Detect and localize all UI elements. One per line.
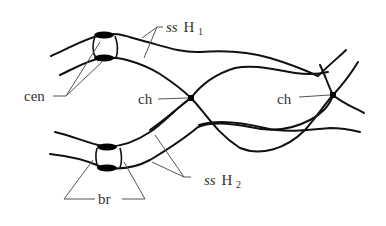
ss-h2-label: ss H 2 <box>204 172 241 190</box>
ch-left-label: ch <box>138 91 153 107</box>
cen-leader <box>53 42 102 96</box>
lower-centromere <box>96 144 122 172</box>
ch-right-label: ch <box>277 91 292 107</box>
lower-strand-left-continue <box>150 98 191 130</box>
ss-h1-label: ss H 1 <box>166 19 203 37</box>
ch-left-leader <box>158 98 188 99</box>
chiasma-right-dot <box>330 92 336 98</box>
cen-label: cen <box>24 88 45 104</box>
ch-right-leader <box>299 95 330 97</box>
br-label: br <box>98 191 111 207</box>
chiasma-left-dot <box>188 95 194 101</box>
lower-strand-top <box>55 98 191 146</box>
chromosome-diagram: ss H 1 cen ch ch ss H 2 br <box>0 0 386 226</box>
